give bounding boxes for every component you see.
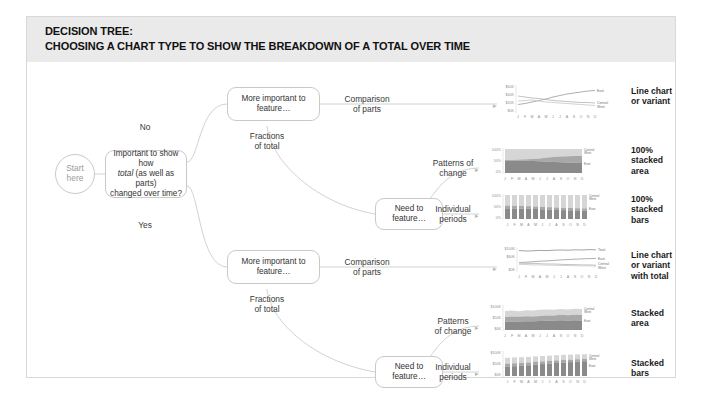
svg-text:J: J [539,334,541,338]
outcome-3-line-1: 100% [631,194,653,204]
outcome-label-1: Line chart or variant [631,86,672,107]
outcome-4-line-1: Line chart [631,250,672,260]
svg-text:A: A [553,177,556,181]
svg-text:M: M [532,177,535,181]
svg-text:A: A [525,334,528,338]
svg-text:$50K: $50K [493,362,502,366]
svg-text:$0K: $0K [495,327,502,331]
question-line-1: Important to show how [113,149,178,168]
edge-label-yes: Yes [123,220,167,230]
svg-text:D: D [581,177,584,181]
outcome-label-6: Stacked bars [631,358,664,379]
svg-text:A: A [527,380,530,384]
outcome-4-line-3: with total [631,271,669,281]
edge-label-fractions-of-total-bottom: Fractionsof total [226,294,308,315]
svg-text:N: N [574,334,577,338]
thumbnail-line-chart: $60K $40K $20K $0K East Central [497,82,623,126]
svg-text:N: N [587,115,590,119]
svg-text:Total: Total [598,248,605,252]
svg-text:East: East [597,89,604,93]
svg-text:0%: 0% [496,216,502,220]
svg-text:S: S [562,223,565,227]
outcome-6-line-2: bars [631,368,649,378]
outcome-5-line-1: Stacked [631,308,664,318]
svg-text:$100K: $100K [491,305,502,309]
svg-text:$60K: $60K [506,85,515,89]
svg-text:O: O [580,115,583,119]
header-title-line-2: CHOOSING A CHART TYPE TO SHOW THE BREAKD… [45,39,675,54]
svg-text:O: O [569,380,572,384]
svg-text:J: J [546,334,548,338]
svg-text:0%: 0% [496,170,502,174]
svg-text:M: M [518,334,521,338]
svg-text:A: A [567,275,570,279]
diagram-header: DECISION TREE: CHOOSING A CHART TYPE TO … [27,17,675,62]
svg-text:O: O [567,334,570,338]
svg-text:D: D [583,380,586,384]
svg-text:J: J [507,223,509,227]
svg-text:J: J [504,334,506,338]
edge-label-comparison-of-parts-bottom: Comparisonof parts [327,257,407,278]
svg-text:J: J [518,275,520,279]
svg-text:F: F [511,334,514,338]
svg-text:M: M [534,380,537,384]
more-important-to-feature-node-bottom[interactable]: More important to feature… [227,250,320,284]
more-important-label-top: More important to feature… [232,94,315,114]
svg-text:$60K: $60K [507,255,516,259]
question-line-2: (as well as parts) [136,169,175,188]
svg-text:A: A [553,334,556,338]
svg-text:N: N [576,223,579,227]
svg-text:East: East [584,162,590,166]
edge-label-fractions-of-total-top: Fractionsof total [226,131,308,152]
outcome-5-line-2: area [631,318,649,328]
svg-text:100%: 100% [492,194,502,198]
svg-text:D: D [583,223,586,227]
outcome-2-line-1: 100% [631,145,653,155]
svg-text:S: S [560,334,563,338]
svg-text:M: M [532,334,535,338]
svg-text:M: M [520,223,523,227]
outcome-2-line-2: stacked [631,155,663,165]
svg-text:J: J [517,115,519,119]
edge-label-comparison-of-parts-top: Comparisonof parts [327,94,407,115]
svg-text:J: J [549,223,551,227]
decision-tree-body: Start here Important to show how total (… [27,62,675,379]
svg-text:F: F [524,115,527,119]
svg-text:J: J [560,275,562,279]
thumbnail-100-stacked-area: 100% 50% 0% Central West East JFM AMJ JA… [479,145,619,191]
svg-text:J: J [504,177,506,181]
question-node[interactable]: Important to show how total (as well as … [105,150,187,198]
svg-text:100%: 100% [492,148,502,152]
svg-text:S: S [562,380,565,384]
thumbnail-stacked-area: $100K $50K $0K Central West East JFM AMJ… [479,302,619,348]
outcome-1-line-1: Line chart [631,86,672,96]
svg-text:J: J [542,380,544,384]
diagram-canvas: DECISION TREE: CHOOSING A CHART TYPE TO … [26,16,676,378]
svg-text:J: J [549,380,551,384]
svg-text:O: O [567,177,570,181]
svg-text:D: D [595,275,598,279]
question-node-label: Important to show how total (as well as … [110,149,182,200]
svg-text:A: A [555,380,558,384]
start-node-label: Start here [60,164,90,183]
svg-text:M: M [546,275,549,279]
svg-text:O: O [569,223,572,227]
svg-text:50%: 50% [494,205,502,209]
svg-text:F: F [513,223,516,227]
svg-text:N: N [574,177,577,181]
svg-text:East: East [584,319,590,323]
more-important-to-feature-node-top[interactable]: More important to feature… [227,87,320,121]
svg-text:$0K: $0K [495,373,502,377]
svg-text:M: M [531,115,534,119]
svg-text:50%: 50% [494,159,502,163]
svg-text:J: J [507,380,509,384]
svg-text:S: S [560,177,563,181]
svg-text:East: East [598,257,605,261]
svg-text:$0K: $0K [509,268,516,272]
start-node[interactable]: Start here [55,154,95,194]
outcome-label-4: Line chart or variant with total [631,250,672,281]
svg-text:$20K: $20K [506,101,515,105]
svg-text:N: N [588,275,591,279]
svg-text:$50K: $50K [493,316,502,320]
svg-text:J: J [552,115,554,119]
